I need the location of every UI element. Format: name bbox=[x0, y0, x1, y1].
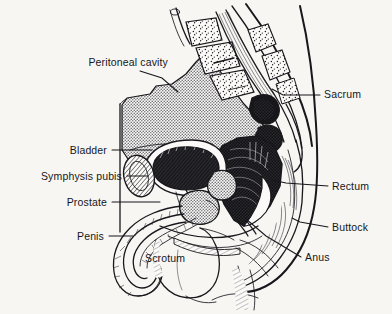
label-rectum: Rectum bbox=[332, 180, 369, 192]
label-buttock: Buttock bbox=[332, 221, 369, 233]
label-symphysis-pubis: Symphysis pubis bbox=[41, 170, 122, 182]
label-sacrum: Sacrum bbox=[324, 88, 361, 100]
label-peritoneal-cavity: Peritoneal cavity bbox=[88, 56, 168, 68]
label-prostate: Prostate bbox=[67, 196, 107, 208]
label-penis: Penis bbox=[77, 230, 104, 242]
label-anus: Anus bbox=[305, 251, 330, 263]
label-scrotum: Scrotum bbox=[145, 252, 185, 264]
anatomical-diagram-male-pelvis-sagittal: Peritoneal cavity Sacrum Bladder Symphys… bbox=[0, 0, 392, 314]
label-bladder: Bladder bbox=[70, 144, 108, 156]
